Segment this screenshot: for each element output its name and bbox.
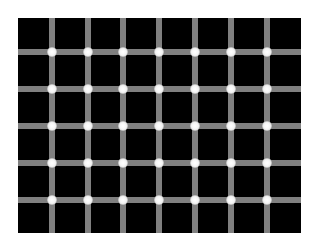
- intersection-dot: [83, 121, 93, 131]
- intersection-dot: [118, 84, 128, 94]
- intersection-dot: [154, 84, 164, 94]
- intersection-dot: [47, 84, 57, 94]
- intersection-dot: [262, 158, 272, 168]
- intersection-dot: [190, 158, 200, 168]
- intersection-dot: [190, 47, 200, 57]
- intersection-dot: [118, 158, 128, 168]
- intersection-dot: [262, 84, 272, 94]
- intersection-dot: [118, 195, 128, 205]
- intersection-dot: [226, 195, 236, 205]
- intersection-dot: [262, 195, 272, 205]
- intersection-dot: [47, 158, 57, 168]
- intersection-dot: [154, 195, 164, 205]
- intersection-dot: [262, 121, 272, 131]
- intersection-dot: [83, 158, 93, 168]
- intersection-dot: [226, 158, 236, 168]
- intersection-dot: [118, 121, 128, 131]
- intersection-dot: [154, 47, 164, 57]
- intersection-dot: [190, 195, 200, 205]
- intersection-dot: [47, 121, 57, 131]
- intersection-dot: [154, 158, 164, 168]
- intersection-dot: [226, 84, 236, 94]
- intersection-dot: [83, 84, 93, 94]
- intersection-dot: [154, 121, 164, 131]
- intersection-dot: [83, 195, 93, 205]
- intersection-dot: [190, 121, 200, 131]
- intersection-dot: [83, 47, 93, 57]
- intersection-dot: [118, 47, 128, 57]
- intersection-dot: [226, 47, 236, 57]
- intersection-dot: [226, 121, 236, 131]
- intersection-dot: [47, 195, 57, 205]
- intersection-dot: [262, 47, 272, 57]
- scintillating-grid-figure: [0, 0, 318, 250]
- intersection-dot: [190, 84, 200, 94]
- intersection-dot: [47, 47, 57, 57]
